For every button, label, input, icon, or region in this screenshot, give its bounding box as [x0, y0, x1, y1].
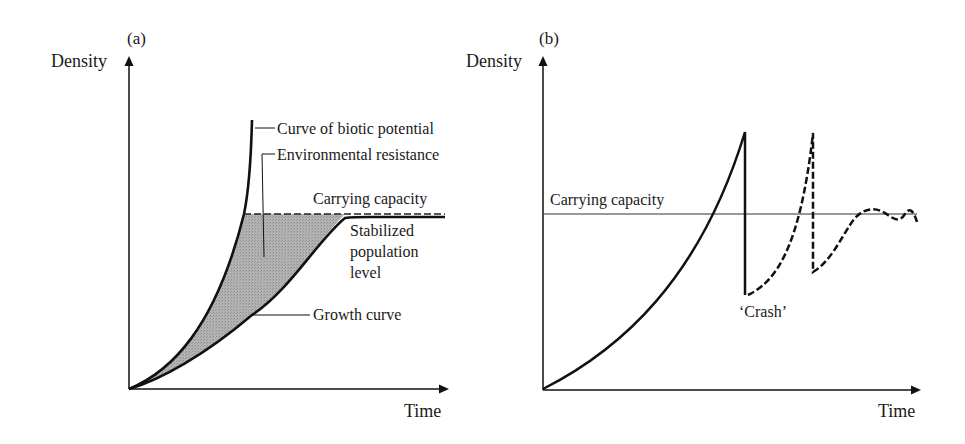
carrying-capacity-label-b: Carrying capacity	[550, 192, 664, 208]
crash-label: ‘Crash’	[739, 304, 787, 320]
stabilized-label-line1: Stabilized	[350, 223, 414, 239]
carrying-capacity-label-a: Carrying capacity	[313, 191, 427, 207]
y-axis-arrow-icon	[125, 56, 134, 66]
y-axis-label-a: Density	[51, 52, 107, 70]
panel-a-label: (a)	[127, 30, 146, 47]
panel-b-label: (b)	[539, 30, 559, 47]
x-axis-label-a: Time	[404, 402, 441, 420]
growth-curve-label: Growth curve	[313, 307, 401, 323]
biotic-potential-label: Curve of biotic potential	[277, 121, 434, 137]
x-axis-arrow-icon	[911, 386, 921, 395]
stabilized-label-line2: population	[350, 244, 418, 260]
x-axis-label-b: Time	[878, 402, 915, 420]
stabilized-label-line3: level	[350, 265, 381, 281]
exponential-growth-curve	[543, 132, 745, 389]
environmental-resistance-label: Environmental resistance	[277, 147, 439, 163]
x-axis-arrow-icon	[439, 385, 449, 394]
y-axis-arrow-icon	[539, 56, 548, 66]
y-axis-label-b: Density	[466, 52, 522, 70]
panel-b	[539, 56, 922, 395]
